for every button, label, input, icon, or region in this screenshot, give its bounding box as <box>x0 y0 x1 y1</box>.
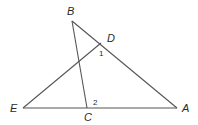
segment-bc <box>72 21 87 108</box>
vertex-label-b: B <box>67 5 74 17</box>
segment-ed <box>23 43 101 108</box>
angle-label-1: 1 <box>99 49 104 58</box>
vertex-label-c: C <box>84 111 92 123</box>
geometry-diagram: B D E C A 1 2 <box>0 0 198 125</box>
angle-label-2: 2 <box>93 98 98 107</box>
vertex-label-a: A <box>181 102 189 114</box>
vertex-label-e: E <box>10 102 18 114</box>
segment-ba <box>72 21 177 108</box>
vertex-label-d: D <box>107 32 115 44</box>
